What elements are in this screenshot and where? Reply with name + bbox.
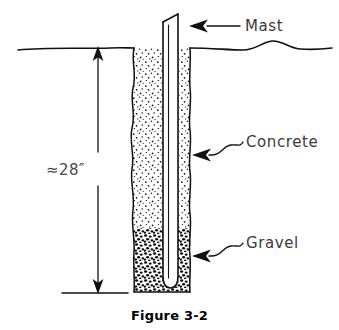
mast-footing-diagram: ≈28″ Mast Concrete Gravel Figure 3-2: [0, 0, 339, 330]
mast-label: Mast: [245, 17, 283, 35]
hole-fill-group: [125, 44, 197, 296]
gravel-fill-texture: [125, 228, 197, 296]
gravel-arrowhead: [192, 250, 211, 263]
concrete-label: Concrete: [246, 133, 318, 151]
concrete-leader-line: [209, 142, 243, 155]
ground-line-right: [190, 41, 332, 50]
hole-right-wall: [189, 48, 190, 292]
mast-arrowhead: [189, 20, 208, 33]
concrete-fill-texture: [125, 44, 197, 230]
depth-dimension-label: ≈28″: [46, 161, 85, 179]
gravel-label: Gravel: [246, 234, 299, 252]
concrete-arrowhead: [192, 149, 211, 162]
ground-line-left: [18, 48, 134, 50]
figure-container: ≈28″ Mast Concrete Gravel Figure 3-2: [0, 0, 339, 330]
mast-beveled-top: [163, 14, 178, 22]
gravel-leader-line: [209, 243, 243, 256]
figure-caption: Figure 3-2: [131, 308, 208, 323]
